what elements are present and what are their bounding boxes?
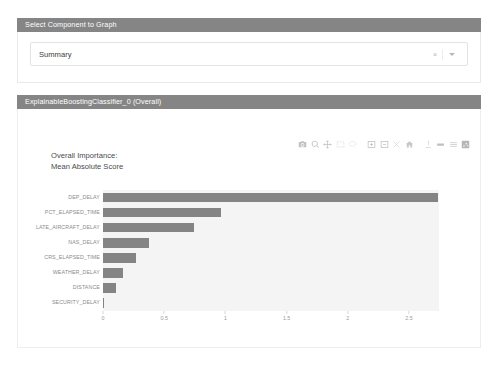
x-axis-tick-label: 0.5 [161, 315, 168, 321]
bar[interactable] [103, 193, 438, 203]
zoom-in-icon[interactable] [367, 140, 376, 149]
select-separator [442, 49, 443, 60]
x-axis-tick: 0.5 [161, 311, 168, 321]
reset-axes-icon[interactable] [405, 140, 414, 149]
x-axis-tick: 0 [102, 311, 105, 321]
y-axis-tick-label: PCT_ELAPSED_TIME [45, 209, 100, 215]
autoscale-icon[interactable] [392, 140, 401, 149]
zoom-out-icon[interactable] [380, 140, 389, 149]
y-axis-tick-label: SECURITY_DELAY [52, 299, 100, 305]
x-axis-tick: 1.5 [283, 311, 290, 321]
x-axis-tick-label: 0 [102, 315, 105, 321]
component-select-value: Summary [39, 50, 428, 59]
hover-compare-icon[interactable] [436, 140, 445, 149]
y-axis-tick-label: DISTANCE [73, 284, 100, 290]
chart-panel: ExplainableBoostingClassifier_0 (Overall… [17, 95, 481, 348]
x-axis-tick: 1 [224, 311, 227, 321]
bar-row[interactable]: CRS_ELAPSED_TIME [103, 251, 439, 266]
bar-row[interactable]: PCT_ELAPSED_TIME [103, 205, 439, 220]
x-axis-tick-label: 2 [346, 315, 349, 321]
page-top-artifact: · · · · · · [0, 0, 498, 8]
chart-panel-header: ExplainableBoostingClassifier_0 (Overall… [17, 95, 481, 109]
bar[interactable] [103, 223, 194, 233]
x-axis-tick-mark [102, 311, 103, 314]
x-axis-tick: 2 [346, 311, 349, 321]
toggle-spikelines-icon[interactable] [424, 140, 433, 149]
bar-chart-plot-area[interactable]: DEP_DELAYPCT_ELAPSED_TIMELATE_AIRCRAFT_D… [103, 190, 439, 311]
component-select[interactable]: Summary × [30, 42, 468, 66]
x-axis-tick-mark [225, 311, 226, 314]
clear-icon[interactable]: × [428, 51, 442, 58]
hover-closest-icon[interactable] [449, 140, 458, 149]
x-axis-tick: 2.5 [405, 311, 412, 321]
page-top-artifact-text: · · · · · · [0, 0, 31, 3]
x-axis-tick-mark [409, 311, 410, 314]
bar-row[interactable]: DEP_DELAY [103, 190, 439, 205]
x-axis-tick-mark [286, 311, 287, 314]
x-axis: 00.511.522.5 [103, 311, 439, 325]
bar-row[interactable]: SECURITY_DELAY [103, 296, 439, 311]
plotly-modebar[interactable] [298, 140, 470, 149]
bar-row[interactable]: DISTANCE [103, 281, 439, 296]
chart-title-line1: Overall Importance: [51, 151, 123, 162]
lasso-select-icon[interactable] [348, 140, 357, 149]
y-axis-tick-label: DEP_DELAY [68, 194, 100, 200]
chart-panel-body: Overall Importance: Mean Absolute Score … [17, 109, 481, 348]
bar[interactable] [103, 208, 221, 218]
box-select-icon[interactable] [336, 140, 345, 149]
select-component-panel: Select Component to Graph Summary × [17, 18, 481, 83]
bar-row[interactable]: NAS_DELAY [103, 235, 439, 250]
y-axis-tick-label: WEATHER_DELAY [53, 269, 100, 275]
chart-title: Overall Importance: Mean Absolute Score [51, 151, 123, 172]
y-axis-tick-label: NAS_DELAY [68, 239, 100, 245]
download-camera-icon[interactable] [298, 140, 307, 149]
zoom-icon[interactable] [311, 140, 320, 149]
select-component-panel-header: Select Component to Graph [17, 18, 481, 32]
chart-title-line2: Mean Absolute Score [51, 162, 123, 173]
x-axis-tick-label: 1.5 [283, 315, 290, 321]
bar[interactable] [103, 268, 123, 278]
x-axis-tick-label: 2.5 [405, 315, 412, 321]
x-axis-tick-mark [164, 311, 165, 314]
bar[interactable] [103, 298, 104, 308]
x-axis-tick-label: 1 [224, 315, 227, 321]
bar-row[interactable]: LATE_AIRCRAFT_DELAY [103, 220, 439, 235]
bar[interactable] [103, 253, 136, 263]
y-axis-tick-label: LATE_AIRCRAFT_DELAY [36, 224, 100, 230]
y-axis-tick-label: CRS_ELAPSED_TIME [44, 254, 100, 260]
bar-row[interactable]: WEATHER_DELAY [103, 266, 439, 281]
bar[interactable] [103, 238, 149, 248]
chevron-down-icon[interactable] [449, 53, 455, 56]
x-axis-tick-mark [347, 311, 348, 314]
select-component-panel-body: Summary × [17, 32, 481, 83]
plotly-logo-icon[interactable] [461, 140, 470, 149]
bar[interactable] [103, 283, 116, 293]
pan-icon[interactable] [323, 140, 332, 149]
